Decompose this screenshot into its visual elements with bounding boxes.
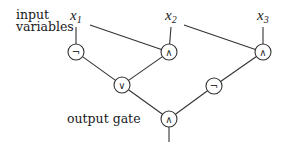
gate-and-g_out: ∧ (161, 111, 177, 127)
and-symbol-icon: ∧ (165, 47, 172, 58)
not-symbol-icon: ¬ (210, 81, 218, 92)
wire-x2-g_and2 (184, 25, 255, 49)
wire-g_and2-g_not2 (221, 57, 257, 82)
gate-not-g_not1: ¬ (68, 44, 84, 60)
gate-and-g_and1: ∧ (161, 44, 177, 60)
input-variables: x1x2x3 (69, 7, 269, 25)
and-symbol-icon: ∧ (259, 47, 266, 58)
output-gate-label: output gate (67, 111, 141, 126)
or-symbol-icon: ∨ (118, 80, 125, 91)
input-label-line2: variables (15, 19, 74, 34)
gate-and-g_and2: ∧ (255, 44, 271, 60)
wire-g_and1-g_or (129, 57, 163, 81)
wire-x1-g_and1 (90, 25, 161, 49)
wire-x2-g_and1 (170, 27, 171, 44)
and-symbol-icon: ∧ (165, 114, 172, 125)
not-symbol-icon: ¬ (72, 47, 80, 58)
wire-g_not2-g_out (175, 91, 207, 115)
variable-x2: x2 (164, 7, 177, 25)
circuit-diagram: input variables output gate x1x2x3 ¬∧∧∨¬… (0, 0, 288, 150)
gate-or-g_or: ∨ (114, 77, 130, 93)
gate-not-g_not2: ¬ (206, 78, 222, 94)
wire-g_not1-g_or (83, 57, 116, 81)
variable-x3: x3 (256, 7, 269, 25)
variable-x1: x1 (69, 7, 82, 25)
